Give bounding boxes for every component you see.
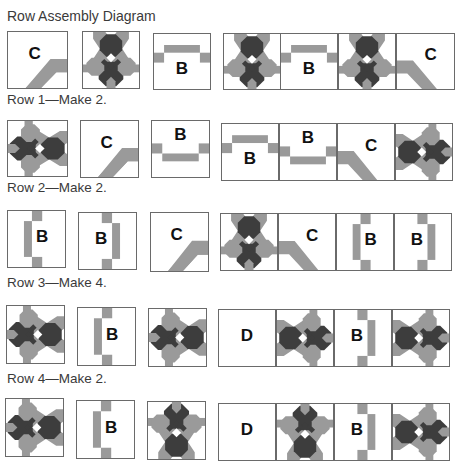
flower-motif-icon <box>221 214 277 270</box>
block-flower <box>392 403 450 461</box>
block-flower <box>5 398 64 457</box>
flower-motif-icon <box>7 306 64 363</box>
block-letter: C <box>8 44 61 64</box>
block-c: C <box>278 213 336 271</box>
block-letter: B <box>88 418 134 438</box>
row-3-label: Row 3—Make 4. <box>7 275 107 290</box>
block-flower <box>338 33 396 90</box>
diagram-title: Row Assembly Diagram <box>7 8 156 24</box>
block-b: B <box>336 213 394 271</box>
block-flower <box>276 309 334 367</box>
block-letter: B <box>395 230 439 250</box>
flower-motif-icon <box>339 34 395 89</box>
flower-motif-icon <box>224 34 280 89</box>
block-letter: D <box>219 326 275 346</box>
block-letter: B <box>281 59 337 79</box>
flower-motif-icon <box>277 404 333 460</box>
block-flower <box>392 309 450 367</box>
block-flower <box>6 305 65 364</box>
block-letter: B <box>152 125 209 145</box>
block-letter: C <box>407 45 454 65</box>
block-letter: B <box>280 128 336 148</box>
row-4-label: Row 4—Make 2. <box>7 371 107 386</box>
block-letter: B <box>348 230 393 250</box>
flower-motif-icon <box>148 402 205 459</box>
block-c: C <box>150 212 209 272</box>
block-letter: B <box>335 326 379 346</box>
flower-motif-icon <box>6 399 63 456</box>
block-letter: B <box>222 149 278 169</box>
flower-motif-icon <box>83 32 139 88</box>
flower-motif-icon <box>393 404 449 460</box>
block-c: C <box>337 123 395 181</box>
block-letter: C <box>289 226 335 246</box>
block-flower <box>220 213 278 271</box>
flower-motif-icon <box>277 310 333 366</box>
block-b: B <box>394 213 452 271</box>
block-flower <box>147 401 206 460</box>
block-letter: C <box>151 225 202 245</box>
flower-motif-icon <box>8 121 67 176</box>
block-b: B <box>334 403 392 461</box>
block-b: B <box>151 120 210 178</box>
block-flower <box>82 31 140 89</box>
block-letter: B <box>335 420 379 440</box>
block-b: B <box>78 212 137 270</box>
block-letter: C <box>81 133 132 153</box>
flower-motif-icon <box>396 124 452 180</box>
block-letter: B <box>19 227 65 247</box>
block-b: B <box>153 33 211 90</box>
block-d: D <box>218 309 276 367</box>
row-1-label: Row 1—Make 2. <box>7 92 107 107</box>
block-flower <box>276 403 334 461</box>
block-letter: B <box>79 229 123 249</box>
block-b: B <box>7 210 66 268</box>
block-letter: B <box>89 325 135 345</box>
block-b: B <box>280 33 338 90</box>
block-b: B <box>221 123 279 181</box>
block-d: D <box>218 403 276 461</box>
block-b: B <box>279 123 337 181</box>
block-letter: D <box>219 420 275 440</box>
block-flower <box>148 308 207 367</box>
block-flower <box>395 123 453 181</box>
block-c: C <box>396 33 455 90</box>
block-flower <box>223 33 281 90</box>
row-2-label: Row 2—Make 2. <box>7 180 107 195</box>
flower-motif-icon <box>149 309 206 366</box>
block-b: B <box>76 400 135 459</box>
block-b: B <box>334 309 392 367</box>
block-c: C <box>7 31 68 89</box>
flower-motif-icon <box>393 310 449 366</box>
block-c: C <box>80 120 139 178</box>
block-b: B <box>77 307 136 366</box>
block-flower <box>7 120 68 177</box>
block-letter: C <box>348 136 394 156</box>
block-letter: B <box>154 59 210 79</box>
